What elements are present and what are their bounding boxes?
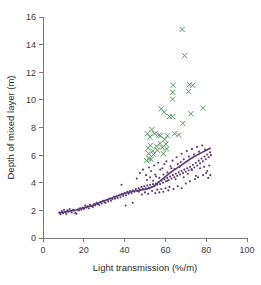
data-point-dot bbox=[175, 178, 177, 180]
data-point-dot bbox=[197, 176, 199, 178]
data-point-cross bbox=[170, 114, 175, 119]
data-point-dot bbox=[183, 158, 185, 160]
data-point-dot bbox=[165, 160, 167, 162]
data-point-dot bbox=[189, 180, 191, 182]
data-point-dot bbox=[209, 151, 211, 153]
y-tick-label: 2 bbox=[31, 206, 36, 216]
data-point-cross bbox=[180, 121, 185, 126]
data-point-dot bbox=[210, 154, 212, 156]
data-point-dot bbox=[157, 162, 159, 164]
y-tick-label: 16 bbox=[26, 12, 36, 22]
y-tick-label: 14 bbox=[26, 40, 36, 50]
data-point-dot bbox=[198, 160, 200, 162]
data-point-dot bbox=[132, 202, 134, 204]
y-axis-title: Depth of mixed layer (m) bbox=[5, 75, 16, 179]
data-point-cross bbox=[150, 127, 155, 132]
data-point-dot bbox=[166, 177, 168, 179]
data-point-dot bbox=[196, 164, 198, 166]
data-point-dot bbox=[164, 187, 166, 189]
x-tick-label: 60 bbox=[160, 245, 170, 255]
data-point-cross bbox=[161, 151, 166, 156]
data-point-dot bbox=[195, 162, 197, 164]
data-point-cross bbox=[187, 82, 192, 87]
data-point-cross bbox=[164, 147, 169, 152]
data-point-dot bbox=[180, 170, 182, 172]
data-point-dot bbox=[135, 188, 137, 190]
data-point-dot bbox=[88, 207, 90, 209]
data-point-dot bbox=[176, 156, 178, 158]
data-point-dot bbox=[187, 173, 189, 175]
data-point-dot bbox=[202, 174, 204, 176]
data-point-dot bbox=[209, 174, 211, 176]
data-point-dot bbox=[150, 170, 152, 172]
data-point-cross bbox=[162, 137, 167, 142]
data-point-dot bbox=[198, 151, 200, 153]
data-point-dot bbox=[180, 161, 182, 163]
data-point-dot bbox=[207, 177, 209, 179]
data-point-dot bbox=[142, 169, 144, 171]
data-point-dot bbox=[149, 176, 151, 178]
data-point-dot bbox=[208, 164, 210, 166]
data-point-dot bbox=[65, 213, 67, 215]
data-point-cross bbox=[144, 158, 149, 163]
data-point-dot bbox=[206, 170, 208, 172]
data-point-dot bbox=[68, 208, 70, 210]
data-point-dot bbox=[166, 180, 168, 182]
data-point-dot bbox=[156, 189, 158, 191]
data-point-dot bbox=[71, 211, 73, 213]
data-point-cross bbox=[201, 106, 206, 111]
y-tick-label: 12 bbox=[26, 68, 36, 78]
data-point-cross bbox=[162, 110, 167, 115]
data-point-dot bbox=[170, 178, 172, 180]
data-point-cross bbox=[189, 111, 194, 116]
data-point-dot bbox=[105, 202, 107, 204]
data-point-dot bbox=[120, 184, 122, 186]
data-point-dot bbox=[178, 171, 180, 173]
data-point-dot bbox=[119, 196, 121, 198]
data-point-dot bbox=[122, 195, 124, 197]
data-point-dot bbox=[152, 183, 154, 185]
trend-line-path bbox=[59, 148, 210, 213]
data-point-dot bbox=[144, 191, 146, 193]
data-point-dot bbox=[181, 153, 183, 155]
data-point-dot bbox=[193, 167, 195, 169]
x-tick-label: 20 bbox=[79, 245, 89, 255]
data-point-dot bbox=[148, 167, 150, 169]
data-point-dot bbox=[179, 173, 181, 175]
data-point-dot bbox=[154, 192, 156, 194]
data-point-dot bbox=[201, 144, 203, 146]
data-point-dot bbox=[189, 166, 191, 168]
data-point-dot bbox=[161, 167, 163, 169]
y-tick-label: 4 bbox=[31, 178, 36, 188]
data-point-dot bbox=[155, 175, 157, 177]
data-point-dot bbox=[125, 204, 127, 206]
data-point-dot bbox=[169, 175, 171, 177]
data-point-dot bbox=[205, 172, 207, 174]
data-point-cross bbox=[180, 27, 185, 32]
x-tick-label: 40 bbox=[120, 245, 130, 255]
data-point-dot bbox=[175, 173, 177, 175]
data-point-dot bbox=[166, 171, 168, 173]
data-point-dot bbox=[159, 169, 161, 171]
data-point-dot bbox=[149, 184, 151, 186]
data-point-dot bbox=[183, 176, 185, 178]
data-point-dot bbox=[199, 167, 201, 169]
data-point-dot bbox=[199, 162, 201, 164]
data-point-dot bbox=[194, 178, 196, 180]
series-dots-group bbox=[58, 144, 212, 215]
data-point-dot bbox=[193, 153, 195, 155]
data-point-dot bbox=[188, 169, 190, 171]
data-point-dot bbox=[140, 186, 142, 188]
data-point-dot bbox=[75, 213, 77, 215]
data-point-dot bbox=[63, 209, 65, 211]
chart-figure: 0246810121416020406080100Light transmiss… bbox=[0, 0, 261, 285]
data-point-dot bbox=[173, 176, 175, 178]
data-point-dot bbox=[153, 164, 155, 166]
data-point-dot bbox=[139, 172, 141, 174]
data-point-dot bbox=[146, 184, 148, 186]
data-point-dot bbox=[176, 175, 178, 177]
scatter-plot-svg: 0246810121416020406080100Light transmiss… bbox=[0, 0, 261, 285]
data-point-dot bbox=[158, 177, 160, 179]
data-point-dot bbox=[163, 163, 165, 165]
data-point-dot bbox=[185, 171, 187, 173]
